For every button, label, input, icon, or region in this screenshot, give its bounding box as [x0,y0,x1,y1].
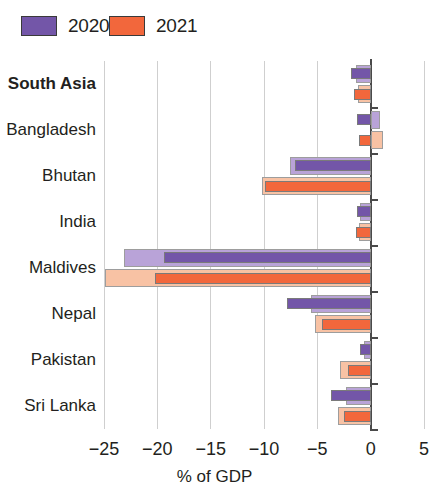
bar-2020 [287,298,370,309]
bar-2020 [357,114,371,125]
bar-2021 [359,135,371,146]
category-label: Bangladesh [6,121,96,138]
category-label: Sri Lanka [24,397,96,414]
x-axis-title: % of GDP [0,467,429,487]
bar-2020 [331,390,370,401]
x-axis-tick-label: −10 [249,439,280,460]
bar-2021 [356,227,371,238]
legend-label-2020: 2020 [68,16,109,36]
chart-row: Bangladesh [0,107,429,153]
chart-row: Maldives [0,245,429,291]
chart-row: Pakistan [0,337,429,383]
chart-row: India [0,199,429,245]
category-label: India [59,213,96,230]
chart-bars-layer: South AsiaBangladeshBhutanIndiaMaldivesN… [0,55,429,435]
axis-tick [371,199,378,201]
bar-2020 [164,252,371,263]
chart-row: South Asia [0,61,429,107]
bar-2021 [155,273,370,284]
chart-row: Bhutan [0,153,429,199]
category-label: Bhutan [42,167,96,184]
x-axis-tick-label: −25 [89,439,120,460]
bar-2020 [295,160,371,171]
bar-2020 [357,206,371,217]
chart-row: Sri Lanka [0,383,429,429]
axis-tick [371,245,378,247]
axis-tick [371,107,378,109]
x-axis-tick-label: 5 [419,439,429,460]
axis-tick [371,153,378,155]
axis-tick [371,291,378,293]
category-label: Nepal [52,305,96,322]
x-axis-tick-label: −15 [195,439,226,460]
legend-swatch-2020 [21,16,57,36]
chart-plot-area: South AsiaBangladeshBhutanIndiaMaldivesN… [0,55,429,435]
x-axis-tick-label: −20 [142,439,173,460]
legend-item-2020: 2020 [21,16,109,36]
bar-2021 [322,319,371,330]
bar-band-2021 [371,131,384,148]
category-label: South Asia [8,75,96,92]
chart-x-axis: % of GDP −25−20−15−10−505 [0,435,429,490]
chart-legend: 2020 2021 [0,0,429,55]
category-label: Maldives [29,259,96,276]
bar-2021 [265,181,371,192]
legend-item-2021: 2021 [109,16,197,36]
legend-label-2021: 2021 [156,16,197,36]
x-axis-tick-label: −5 [307,439,328,460]
bar-band-2020 [371,111,381,128]
bar-2021 [348,365,370,376]
bar-2021 [344,411,371,422]
axis-tick [371,337,378,339]
category-label: Pakistan [31,351,96,368]
bar-2021 [354,89,371,100]
bar-2020 [360,344,371,355]
chart-row: Nepal [0,291,429,337]
axis-tick [371,383,378,385]
x-axis-tick-label: 0 [366,439,376,460]
legend-swatch-2021 [109,16,145,36]
bar-2020 [351,68,370,79]
